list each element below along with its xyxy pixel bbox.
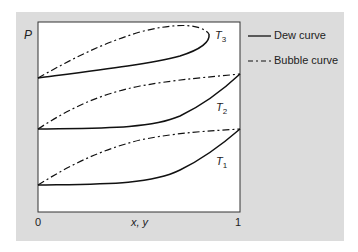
legend-dew-label: Dew curve (274, 29, 326, 41)
x-tick-1: 1 (235, 216, 241, 228)
plot-area (38, 22, 240, 212)
x-axis-label: x, y (131, 216, 148, 228)
t1-label: T1 (216, 155, 227, 170)
t3-label: T3 (215, 29, 226, 44)
y-axis-label: P (24, 28, 32, 42)
x-tick-0: 0 (35, 216, 41, 228)
legend-bubble-label: Bubble curve (274, 54, 338, 66)
t2-label: T2 (216, 101, 227, 116)
